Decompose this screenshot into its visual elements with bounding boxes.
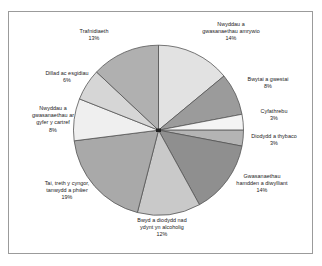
pie-label-hamdden: Gwasanaethau hamdden a diwylliant 14%	[214, 173, 310, 195]
pie-label-trafnidiaeth: Trafnidiaeth 13%	[52, 28, 136, 42]
pie-label-amrywio: Nwyddau a gwasanaethau amrywio 14%	[182, 21, 280, 43]
pie-label-cyfathrebu: Cyfathrebu 3%	[236, 108, 312, 122]
pie-center-hub	[156, 129, 161, 133]
pie-label-diodydd: Diodydd a thybaco 3%	[232, 133, 316, 147]
figure-canvas: Trafnidiaeth 13% Nwyddau a gwasanaethau …	[0, 0, 322, 266]
pie-label-tai: Tai, treth y cyngor, tanwydd a phŵer 19%	[21, 180, 113, 202]
pie-label-bwyd: Bwyd a diodydd nad ydynt yn alcoholig 12…	[110, 217, 214, 239]
pie-label-dillad: Dillad ac esgidiau 6%	[24, 70, 110, 84]
pie-label-bwytai: Bwytai a gwestai 8%	[226, 76, 310, 90]
pie-label-cartref: Nwyddau a gwasanaethau ar gyfer y cartre…	[9, 105, 97, 134]
